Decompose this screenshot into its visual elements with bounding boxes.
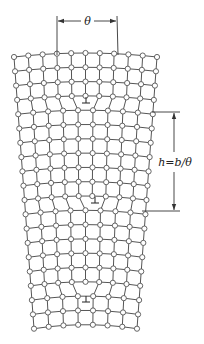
atom (83, 251, 88, 256)
atom (83, 50, 88, 55)
atom (47, 152, 52, 157)
atom (16, 112, 21, 117)
atom (23, 212, 28, 217)
atom (148, 140, 153, 145)
atom (69, 93, 74, 98)
atom (28, 96, 33, 101)
atom (126, 239, 131, 244)
atom (69, 51, 74, 56)
atom (121, 296, 126, 301)
atom (120, 310, 125, 315)
atom (68, 237, 73, 242)
atom (48, 180, 53, 185)
height-label: h=b/θ (158, 156, 192, 169)
atom (97, 51, 102, 56)
atom (83, 222, 88, 227)
atom (68, 208, 73, 213)
atom (61, 122, 66, 127)
atom (127, 224, 132, 229)
atom (105, 323, 110, 328)
atom (128, 210, 133, 215)
atom (35, 196, 40, 201)
atom (140, 255, 145, 260)
atom (98, 208, 103, 213)
atom (149, 126, 154, 131)
atom (40, 239, 45, 244)
atom (22, 197, 27, 202)
atom (76, 179, 81, 184)
atom (137, 298, 142, 303)
atom (90, 122, 95, 127)
atom (133, 153, 138, 158)
atom (139, 269, 144, 274)
atom (105, 137, 110, 142)
theta-label: θ (84, 15, 91, 28)
atom (60, 294, 65, 299)
atom (75, 308, 80, 313)
atom (126, 52, 131, 57)
atom (27, 269, 32, 274)
atom (97, 265, 102, 270)
atom (135, 312, 140, 317)
atom (21, 183, 26, 188)
atom (32, 139, 37, 144)
atom (120, 123, 125, 128)
atom (41, 267, 46, 272)
arrowhead-right-icon (110, 19, 116, 23)
atom (38, 210, 43, 215)
atom (76, 322, 81, 327)
atom (53, 209, 58, 214)
atom (30, 312, 35, 317)
atom (151, 97, 156, 102)
atom (90, 108, 95, 113)
atom (120, 109, 125, 114)
atom (104, 180, 109, 185)
atom (135, 110, 140, 115)
atom (125, 253, 130, 258)
atom (17, 126, 22, 131)
atom (90, 193, 95, 198)
atom (152, 83, 157, 88)
atom (111, 252, 116, 257)
atom (31, 124, 36, 129)
atom (26, 53, 31, 58)
atom (139, 67, 144, 72)
atom (145, 183, 150, 188)
atom (110, 280, 115, 285)
atom (41, 80, 46, 85)
theta-extension-line-right (117, 16, 118, 55)
atom (119, 152, 124, 157)
atom (106, 294, 111, 299)
atom (83, 65, 88, 70)
tilt-boundary-diagram: θ h=b/θ (0, 0, 204, 344)
atom (138, 82, 143, 87)
atom (83, 79, 88, 84)
atom (153, 69, 158, 74)
atom (35, 182, 40, 187)
atom (134, 326, 139, 331)
atom (112, 223, 117, 228)
atom (54, 237, 59, 242)
edge-dislocation-symbols (82, 97, 99, 302)
atom (118, 166, 123, 171)
atom (46, 324, 51, 329)
atom (62, 151, 67, 156)
atom (97, 93, 102, 98)
atom (103, 194, 108, 199)
atom (97, 79, 102, 84)
atom (111, 266, 116, 271)
atom (125, 267, 130, 272)
atom (68, 222, 73, 227)
atom (61, 137, 66, 142)
atom (40, 253, 45, 258)
atom (55, 266, 60, 271)
atom (110, 94, 115, 99)
atom (97, 251, 102, 256)
atom (24, 226, 29, 231)
atom (97, 279, 102, 284)
atom (125, 80, 130, 85)
atom (98, 222, 103, 227)
atom (105, 309, 110, 314)
arrowhead-down-icon (172, 204, 176, 210)
atom (61, 323, 66, 328)
